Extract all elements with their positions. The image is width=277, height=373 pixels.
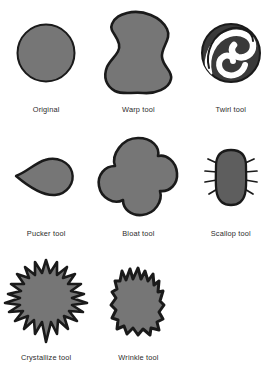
figure-cell-crystallize: Crystallize tool [0, 248, 92, 372]
shape-caption: Scallop tool [211, 230, 251, 248]
shape-caption: Bloat tool [122, 230, 154, 248]
crystallize-starburst-icon [3, 258, 89, 344]
shape-container [185, 124, 277, 230]
bloat-clover-icon [96, 135, 180, 219]
figure-cell-bloat: Bloat tool [92, 124, 184, 248]
figure-row: Crystallize tool Wrinkle tool [0, 248, 277, 372]
figure-cell-pucker: Pucker tool [0, 124, 92, 248]
shape-container [0, 0, 92, 106]
shape-caption: Wrinkle tool [118, 354, 158, 372]
shape-container [185, 0, 277, 106]
figure-cell-twirl: Twirl tool [185, 0, 277, 124]
shape-container [92, 0, 184, 106]
liquify-tools-figure: Original Warp tool [0, 0, 277, 373]
scallop-spiked-icon [201, 146, 261, 208]
shape-container [0, 124, 92, 230]
shape-caption: Warp tool [122, 106, 155, 124]
shape-caption: Twirl tool [215, 106, 246, 124]
shape-caption: Crystallize tool [21, 354, 71, 372]
shape-container [92, 248, 184, 354]
figure-row: Original Warp tool [0, 0, 277, 124]
wrinkle-jagged-icon [107, 265, 169, 337]
figure-cell-original: Original [0, 0, 92, 124]
shape-container [0, 248, 92, 354]
shape-container [92, 124, 184, 230]
twirl-spiral-icon [199, 21, 263, 85]
warp-blob-icon [99, 9, 177, 97]
original-circle-icon [15, 22, 77, 84]
pucker-teardrop-icon [13, 154, 79, 200]
figure-cell-warp: Warp tool [92, 0, 184, 124]
figure-cell-wrinkle: Wrinkle tool [92, 248, 184, 372]
shape-caption: Original [33, 106, 60, 124]
figure-cell-scallop: Scallop tool [185, 124, 277, 248]
shape-caption: Pucker tool [27, 230, 66, 248]
figure-row: Pucker tool Bloat tool [0, 124, 277, 248]
